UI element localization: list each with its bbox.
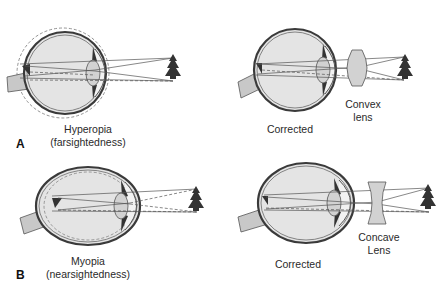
panel-letter-a: A: [16, 137, 25, 151]
tree-object-icon: [165, 54, 181, 79]
concave-lens: [368, 182, 386, 224]
myopia-eye: [20, 167, 204, 245]
myopia-corrected-label: Corrected: [268, 258, 328, 270]
concave-lens-label-line2: Lens: [349, 244, 409, 256]
convex-lens-label-line1: Convex: [338, 98, 388, 110]
convex-lens-label-line2: lens: [338, 111, 388, 123]
myopia-subtitle: (nearsightedness): [38, 268, 138, 280]
hyperopia-corrected-label: Corrected: [260, 123, 320, 135]
hyperopia-eye: [7, 28, 181, 118]
convex-lens: [347, 50, 367, 86]
tree-object-icon: [420, 184, 436, 209]
tree-object-icon: [188, 186, 204, 211]
hyperopia-subtitle: (farsightedness): [38, 136, 138, 148]
panel-letter-b: B: [16, 268, 25, 282]
myopia-title: Myopia: [58, 255, 118, 267]
hyperopia-title: Hyperopia: [58, 123, 118, 135]
concave-lens-label-line1: Concave: [349, 231, 409, 243]
